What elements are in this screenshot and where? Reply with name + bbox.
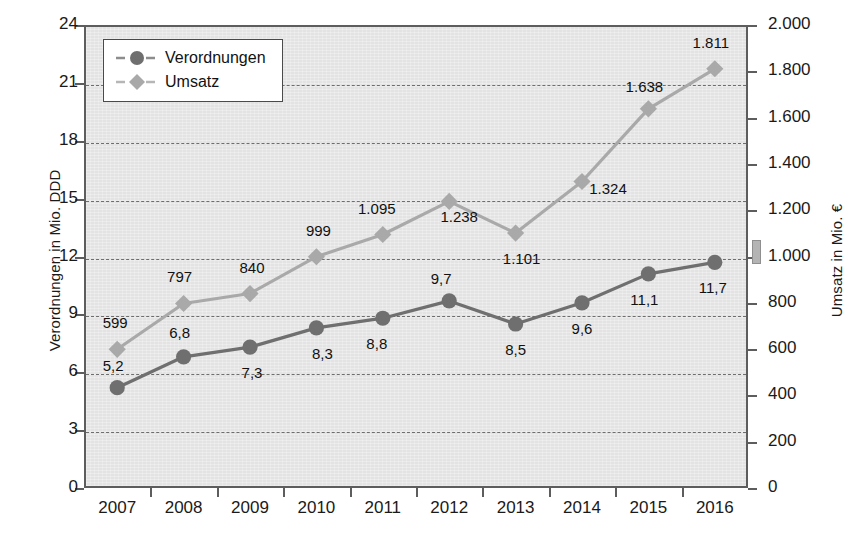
data-point-marker[interactable] (241, 285, 258, 302)
data-point-label: 599 (103, 314, 128, 331)
x-tick-label: 2011 (350, 498, 416, 518)
scan-artifact (752, 240, 761, 264)
left-tick-label: 3 (18, 419, 78, 439)
data-point-marker[interactable] (574, 295, 589, 310)
right-tick-mark (748, 303, 757, 305)
x-tick-label: 2007 (84, 498, 150, 518)
data-point-marker[interactable] (374, 226, 391, 243)
data-point-label: 8,8 (366, 335, 387, 352)
left-tick-label: 21 (18, 72, 78, 92)
chart-legend: Verordnungen Umsatz (103, 39, 283, 102)
right-tick-label: 1.800 (768, 60, 838, 80)
chart-page: Verordnungen in Mio. DDD Umsatz in Mio. … (0, 0, 868, 540)
left-tick-label: 18 (18, 130, 78, 150)
left-tick-label: 9 (18, 303, 78, 323)
right-tick-mark (748, 349, 757, 351)
data-point-marker[interactable] (242, 340, 257, 355)
data-point-label: 9,7 (431, 270, 452, 287)
left-tick-label: 6 (18, 361, 78, 381)
data-point-marker[interactable] (110, 380, 125, 395)
right-tick-label: 0 (768, 477, 838, 497)
x-tick-mark (549, 488, 551, 497)
right-tick-mark (748, 395, 757, 397)
legend-label-umsatz: Umsatz (165, 73, 219, 91)
legend-item-verordnungen: Verordnungen (114, 46, 266, 70)
right-tick-label: 1.400 (768, 153, 838, 173)
x-tick-mark (283, 488, 285, 497)
right-tick-mark (748, 118, 757, 120)
data-point-marker[interactable] (375, 311, 390, 326)
data-point-marker[interactable] (508, 316, 523, 331)
right-tick-label: 1.000 (768, 246, 838, 266)
data-point-label: 797 (167, 268, 192, 285)
left-tick-label: 24 (18, 14, 78, 34)
data-point-label: 8,5 (505, 341, 526, 358)
data-point-marker[interactable] (308, 248, 325, 265)
data-point-marker[interactable] (706, 60, 723, 77)
data-point-label: 999 (306, 222, 331, 239)
right-tick-mark (748, 164, 757, 166)
x-tick-label: 2012 (416, 498, 482, 518)
data-point-marker[interactable] (707, 255, 722, 270)
x-tick-mark (416, 488, 418, 497)
data-point-label: 1.324 (589, 180, 627, 197)
x-tick-mark (682, 488, 684, 497)
data-point-marker[interactable] (309, 320, 324, 335)
left-tick-label: 0 (18, 477, 78, 497)
data-point-marker[interactable] (641, 266, 656, 281)
circle-marker-icon (114, 48, 160, 68)
data-point-label: 1.095 (358, 200, 396, 217)
right-tick-label: 600 (768, 338, 838, 358)
data-point-label: 1.811 (693, 34, 729, 51)
x-tick-label: 2010 (283, 498, 349, 518)
x-tick-label: 2016 (682, 498, 748, 518)
right-tick-mark (748, 442, 757, 444)
x-tick-label: 2008 (150, 498, 216, 518)
x-tick-label: 2009 (217, 498, 283, 518)
x-tick-mark (150, 488, 152, 497)
data-point-label: 1.638 (626, 78, 664, 95)
data-point-label: 11,1 (630, 291, 658, 308)
x-tick-label: 2015 (615, 498, 681, 518)
right-tick-mark (748, 25, 757, 27)
data-point-label: 8,3 (312, 345, 333, 362)
data-point-label: 5,2 (103, 357, 124, 374)
right-tick-label: 2.000 (768, 14, 838, 34)
legend-label-verordnungen: Verordnungen (165, 49, 266, 67)
right-tick-mark (748, 210, 757, 212)
x-tick-mark (482, 488, 484, 497)
series-line-umsatz (117, 69, 715, 350)
left-tick-label: 15 (18, 188, 78, 208)
data-point-label: 9,6 (572, 320, 593, 337)
x-tick-label: 2014 (549, 498, 615, 518)
series-line-verordnungen (117, 262, 715, 387)
data-point-label: 840 (239, 259, 264, 276)
right-tick-mark (748, 488, 757, 490)
data-point-label: 6,8 (169, 324, 190, 341)
right-tick-label: 400 (768, 384, 838, 404)
data-point-label: 7,3 (242, 364, 263, 381)
right-tick-label: 200 (768, 431, 838, 451)
legend-item-umsatz: Umsatz (114, 70, 266, 94)
right-tick-label: 1.200 (768, 199, 838, 219)
data-point-marker[interactable] (176, 349, 191, 364)
right-tick-label: 1.600 (768, 107, 838, 127)
data-point-marker[interactable] (442, 293, 457, 308)
right-tick-mark (748, 71, 757, 73)
x-tick-label: 2013 (482, 498, 548, 518)
data-point-label: 1.238 (440, 208, 478, 225)
x-tick-mark (350, 488, 352, 497)
diamond-marker-icon (114, 72, 160, 92)
left-tick-label: 12 (18, 246, 78, 266)
data-point-label: 11,7 (699, 279, 727, 296)
right-tick-label: 800 (768, 292, 838, 312)
x-tick-mark (615, 488, 617, 497)
data-point-label: 1.101 (503, 250, 541, 267)
x-tick-mark (217, 488, 219, 497)
